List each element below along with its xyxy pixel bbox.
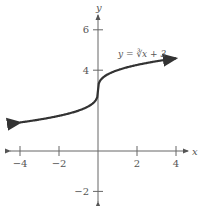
- y-tick-label: 4: [83, 65, 89, 76]
- x-tick-label: −4: [13, 158, 28, 169]
- function-graph: −4−224−246 x y y = ∛x + 3: [0, 0, 200, 206]
- axes: [10, 15, 188, 202]
- y-axis-label: y: [95, 2, 102, 13]
- y-tick-label: 6: [83, 24, 89, 35]
- equation-label: y = ∛x + 3: [117, 48, 166, 59]
- y-tick-label: −2: [74, 186, 89, 197]
- x-axis-label: x: [192, 146, 198, 157]
- x-tick-label: 2: [134, 158, 140, 169]
- x-tick-label: −2: [52, 158, 67, 169]
- x-tick-label: 4: [173, 158, 179, 169]
